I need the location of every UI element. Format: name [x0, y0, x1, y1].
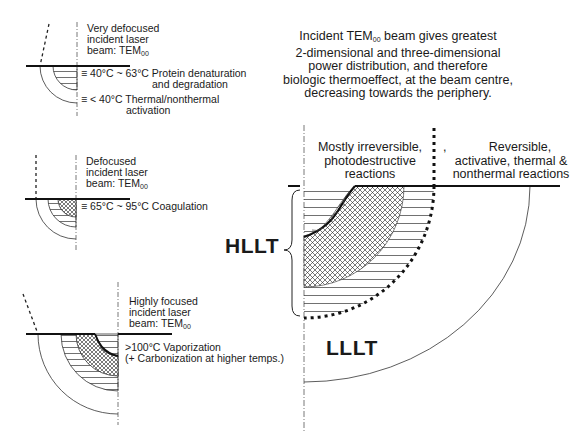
region-label-line-1: Mostly irreversible, — [308, 141, 432, 155]
hllt-label: HLLT — [225, 240, 279, 251]
title-line-4: biologic thermoeffect, at the beam centr… — [258, 74, 538, 88]
region-label-line-3: nonthermal reactions — [436, 168, 585, 182]
hatch-legend-icon: ≡ — [81, 93, 87, 105]
beam-mode-subscript: 00 — [183, 323, 191, 330]
title-line-3: power distribution, and therefore — [258, 60, 538, 74]
region-label-line-2: photodestructive — [308, 155, 432, 169]
region-label-line-3: reactions — [308, 168, 432, 182]
panel-1-zone-denaturation: ≡ 40°C ~ 63°C Protein denaturation and d… — [81, 68, 246, 90]
panel-3-zone-vaporization: >100°C Vaporization (+ Carbonization at … — [125, 342, 284, 364]
beam-label-line-3: beam: TEM — [87, 44, 141, 56]
lllt-label: LLLT — [326, 342, 378, 353]
beam-mode-subscript: 00 — [140, 183, 148, 190]
title-line-1: Incident TEM — [299, 29, 372, 43]
title-subscript: 00 — [373, 36, 381, 43]
title-line-2: 2-dimensional and three-dimensional — [258, 47, 538, 61]
region-label-line-2: activative, thermal & — [436, 155, 585, 169]
panel-3-beam-label: Highly focused incident laser beam: TEM0… — [129, 296, 198, 332]
zone-text-cont: activation — [81, 105, 219, 116]
panel-2-zone-coagulation: ≡ 65°C ~ 95°C Coagulation — [81, 201, 208, 212]
hllt-brace — [284, 190, 300, 316]
irreversible-region-label: Mostly irreversible, photodestructive re… — [308, 141, 432, 182]
beam-incidence-line — [40, 24, 49, 66]
reversible-region-label: Reversible, activative, thermal & nonthe… — [436, 141, 585, 182]
beam-label-line-3: beam: TEM — [86, 177, 140, 189]
diagram-title: Incident TEM00 beam gives greatest 2-dim… — [258, 30, 538, 101]
region-label-line-1: Reversible, — [436, 141, 585, 155]
beam-label-line-3: beam: TEM — [129, 317, 183, 329]
panel-1-beam-label: Very defocused incident laser beam: TEM0… — [87, 23, 159, 59]
title-line-5: decreasing towards the periphery. — [258, 87, 538, 101]
panel-2-beam-label: Defocused incident laser beam: TEM00 — [86, 156, 148, 192]
denaturation-zone — [53, 66, 77, 90]
panel-1-zone-activation: ≡ < 40°C Thermal/nonthermal activation — [81, 94, 219, 116]
hatch-legend-icon: ≡ — [81, 200, 87, 212]
zone-text-cont: and degradation — [81, 79, 246, 90]
hatch-legend-icon: ≡ — [81, 67, 87, 79]
zone-text: 65°C ~ 95°C Coagulation — [90, 200, 208, 212]
beam-incidence-line — [23, 294, 38, 334]
title-line-1-rest: beam gives greatest — [381, 29, 497, 43]
zone-text-cont: (+ Carbonization at higher temps.) — [125, 353, 284, 364]
beam-mode-subscript: 00 — [141, 50, 149, 57]
